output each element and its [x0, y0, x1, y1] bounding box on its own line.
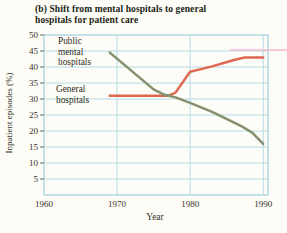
y-tick-label: 10 — [12, 158, 38, 168]
y-tick-label: 40 — [12, 62, 38, 72]
series-line-public-mental-hospitals — [110, 53, 263, 144]
x-axis-label: Year — [110, 212, 200, 222]
x-tick-label: 1990 — [248, 199, 278, 209]
series-label-line: mental — [58, 47, 91, 58]
series-label-line: Public — [58, 36, 91, 47]
y-tick-label: 5 — [12, 174, 38, 184]
x-tick-label: 1980 — [175, 199, 205, 209]
y-tick-label: 35 — [12, 78, 38, 88]
textbook-chart-figure: (b) Shift from mental hospitals to gener… — [0, 0, 287, 233]
series-label-public-mental-hospitals: Public mental hospitals — [58, 36, 91, 68]
series-label-line: hospitals — [56, 95, 89, 106]
y-tick-label: 45 — [12, 46, 38, 56]
y-tick-label: 50 — [12, 30, 38, 40]
x-tick-label: 1960 — [29, 199, 59, 209]
series-label-general-hospitals: General hospitals — [56, 84, 89, 105]
series-label-line: General — [56, 84, 89, 95]
y-tick-label: 20 — [12, 126, 38, 136]
series-label-line: hospitals — [58, 57, 91, 68]
y-tick-label: 15 — [12, 142, 38, 152]
series-line-general-hospitals — [110, 57, 263, 95]
y-tick-label: 30 — [12, 94, 38, 104]
y-tick-label: 25 — [12, 110, 38, 120]
x-tick-label: 1970 — [102, 199, 132, 209]
